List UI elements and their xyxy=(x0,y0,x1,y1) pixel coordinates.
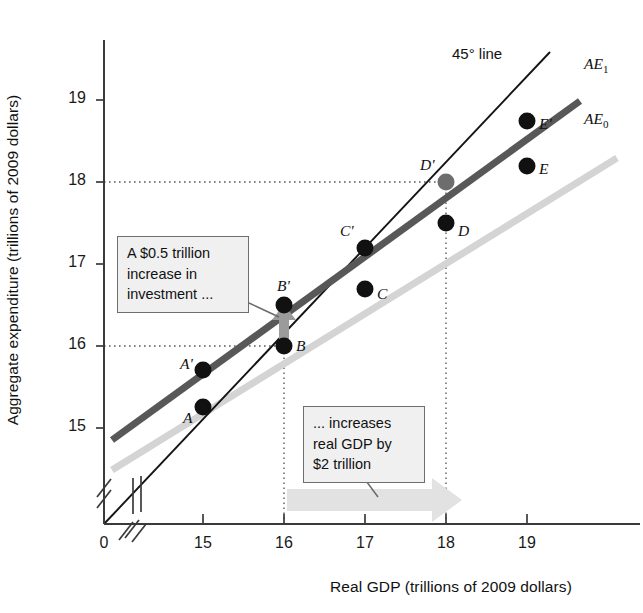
point-a-prime xyxy=(195,362,212,379)
y-tick-label-19: 19 xyxy=(56,89,86,107)
x-tick-label-18: 18 xyxy=(431,534,461,552)
callout-investment-increase: A $0.5 trillion increase in investment .… xyxy=(117,236,249,313)
callout-gdp-line3: $2 trillion xyxy=(313,454,415,475)
callout-gdp-increase: ... increases real GDP by $2 trillion xyxy=(303,406,425,483)
point-e-prime xyxy=(519,113,536,130)
point-label-a: A xyxy=(183,409,192,427)
point-label-c: C xyxy=(377,285,387,303)
point-label-b-prime: B' xyxy=(277,277,290,295)
y-axis-title-text: Aggregate expenditure (trillions of 2009… xyxy=(4,95,22,426)
point-a xyxy=(195,399,212,416)
point-e xyxy=(519,158,536,175)
gdp-arrow-shape xyxy=(287,478,462,522)
callout-investment-line3: investment ... xyxy=(127,284,239,305)
y-tick-label-15: 15 xyxy=(56,417,86,435)
x-tick-label-0: 0 xyxy=(89,534,119,552)
curve-label-45-degree-line: 45° line xyxy=(452,45,502,62)
point-b-prime xyxy=(276,297,293,314)
y-tick-label-18: 18 xyxy=(56,171,86,189)
point-label-d-prime: D' xyxy=(420,156,435,174)
y-tick-label-17: 17 xyxy=(56,253,86,271)
point-label-e-prime: E' xyxy=(539,115,552,133)
curve-label-ae0-text: AE xyxy=(584,110,603,127)
x-tick-label-17: 17 xyxy=(350,534,380,552)
y-axis-title: Aggregate expenditure (trillions of 2009… xyxy=(0,0,26,520)
callout-investment-line1: A $0.5 trillion xyxy=(127,243,239,264)
callout-gdp-line1: ... increases xyxy=(313,413,415,434)
curve-label-ae1-sub: 1 xyxy=(603,63,609,75)
point-label-d: D xyxy=(458,222,469,240)
gdp-increase-arrow xyxy=(287,478,462,522)
aggregate-expenditure-chart: Aggregate expenditure (trillions of 2009… xyxy=(0,0,643,613)
callout-gdp-line2: real GDP by xyxy=(313,434,415,455)
plot-canvas xyxy=(0,0,643,613)
curve-label-ae1-text: AE xyxy=(584,55,603,72)
y-tick-label-16: 16 xyxy=(56,335,86,353)
x-tick-label-16: 16 xyxy=(269,534,299,552)
point-b xyxy=(276,338,293,355)
callout-investment-line2: increase in xyxy=(127,264,239,285)
curve-label-ae0-sub: 0 xyxy=(603,118,609,130)
point-d-prime xyxy=(438,174,455,191)
curve-label-ae0: AE0 xyxy=(584,110,608,130)
point-label-b: B xyxy=(296,337,305,355)
point-d xyxy=(438,215,455,232)
point-label-c-prime: C' xyxy=(340,222,354,240)
point-label-a-prime: A' xyxy=(180,355,193,373)
curve-label-ae1: AE1 xyxy=(584,55,608,75)
x-axis-title: Real GDP (trillions of 2009 dollars) xyxy=(330,578,572,596)
point-label-e: E xyxy=(539,160,548,178)
point-c-prime xyxy=(357,240,374,257)
point-c xyxy=(357,281,374,298)
x-tick-label-19: 19 xyxy=(512,534,542,552)
x-tick-label-15: 15 xyxy=(188,534,218,552)
leader-line-investment xyxy=(249,303,279,317)
